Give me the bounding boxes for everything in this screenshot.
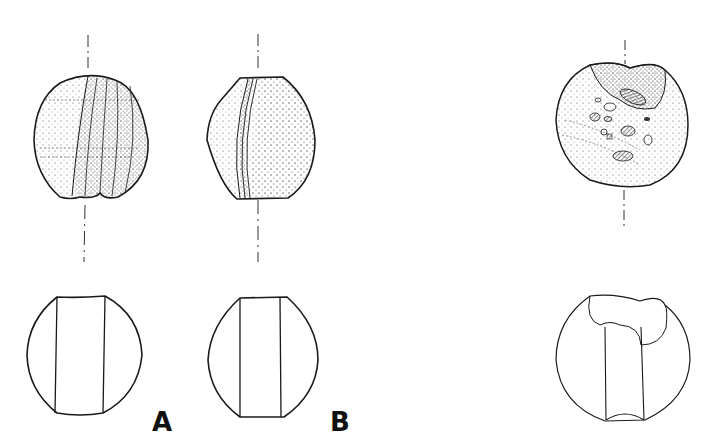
bead-a-section xyxy=(27,296,142,415)
bead-a-exterior xyxy=(34,35,148,262)
bead-b-exterior xyxy=(207,34,315,262)
label-b: B xyxy=(330,409,350,435)
label-a: A xyxy=(152,409,172,435)
bead-c-exterior xyxy=(556,40,688,228)
bead-c-section xyxy=(556,295,690,421)
bead-b-section xyxy=(208,297,318,417)
bead-drawings xyxy=(0,0,710,445)
figure-canvas: A B xyxy=(0,0,710,445)
